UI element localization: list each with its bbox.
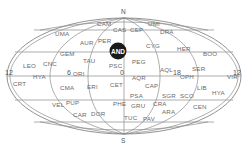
- constellation-label-lib[interactable]: LIB: [197, 84, 207, 91]
- constellation-label-phe[interactable]: PHE: [113, 100, 126, 107]
- constellation-label-ori[interactable]: ORI: [73, 70, 85, 77]
- sky-map: N S 12 6 0 18 12 AND CAMCASCEPUMIDRAUMAA…: [0, 0, 248, 149]
- constellation-label-psc[interactable]: PSC: [109, 62, 123, 69]
- constellation-label-per[interactable]: PER: [98, 37, 112, 44]
- constellation-label-hya2[interactable]: HYA: [212, 89, 226, 96]
- constellation-label-gru[interactable]: GRU: [131, 102, 145, 109]
- constellation-label-psa[interactable]: PSA: [130, 92, 144, 99]
- constellation-label-ara[interactable]: ARA: [162, 108, 176, 115]
- constellation-label-dor[interactable]: DOR: [91, 110, 106, 117]
- constellation-label-vel[interactable]: VEL: [52, 101, 65, 108]
- constellation-label-sgr[interactable]: SGR: [162, 92, 176, 99]
- constellation-label-cnc[interactable]: CNC: [43, 60, 57, 67]
- constellation-label-car[interactable]: CAR: [73, 111, 87, 118]
- constellation-label-tuc[interactable]: TUC: [124, 114, 138, 121]
- constellation-label-cap[interactable]: CAP: [145, 82, 158, 89]
- constellation-label-dra[interactable]: DRA: [160, 28, 174, 35]
- constellation-label-ser[interactable]: SER: [192, 65, 206, 72]
- south-pole-label: S: [121, 137, 126, 144]
- constellation-label-vir[interactable]: VIR: [227, 73, 238, 80]
- constellation-label-cen[interactable]: CEN: [193, 103, 207, 110]
- constellation-label-crt[interactable]: CRT: [13, 80, 26, 87]
- constellation-label-cep[interactable]: CEP: [130, 26, 143, 33]
- north-pole-label: N: [121, 8, 126, 15]
- constellation-label-umi[interactable]: UMI: [148, 20, 160, 27]
- constellation-label-cma[interactable]: CMA: [60, 84, 75, 91]
- constellation-label-cet[interactable]: CET: [110, 81, 123, 88]
- constellation-label-cyg[interactable]: CYG: [146, 42, 160, 49]
- constellation-label-tau[interactable]: TAU: [83, 57, 96, 64]
- constellation-label-uma[interactable]: UMA: [55, 30, 70, 37]
- constellation-label-eri[interactable]: ERI: [87, 83, 98, 90]
- constellation-label-aqr[interactable]: AQR: [132, 74, 146, 81]
- constellation-label-boo[interactable]: BOO: [203, 50, 217, 57]
- constellation-labels: CAMCASCEPUMIDRAUMAAURPERCYGHERBOOGEMLEOC…: [13, 20, 238, 122]
- constellation-label-gem[interactable]: GEM: [60, 50, 75, 57]
- hour-label-left: 12: [5, 69, 13, 76]
- constellation-label-sco[interactable]: SCO: [180, 92, 194, 99]
- constellation-label-her[interactable]: HER: [177, 45, 191, 52]
- constellation-label-cas[interactable]: CAS: [113, 26, 126, 33]
- constellation-label-peg[interactable]: PEG: [132, 58, 146, 65]
- constellation-label-cam[interactable]: CAM: [97, 20, 111, 27]
- constellation-label-hya1[interactable]: HYA: [33, 73, 47, 80]
- constellation-label-cra[interactable]: CRA: [153, 100, 167, 107]
- constellation-label-pav[interactable]: PAV: [143, 115, 156, 122]
- highlighted-constellation-and[interactable]: AND: [110, 43, 127, 60]
- constellation-label-aur[interactable]: AUR: [80, 39, 94, 46]
- constellation-label-leo[interactable]: LEO: [23, 62, 36, 69]
- hour-label-0: 0: [120, 69, 124, 76]
- constellation-label-aql[interactable]: AQL: [160, 66, 173, 73]
- constellation-label-oph[interactable]: OPH: [180, 73, 194, 80]
- constellation-label-pup[interactable]: PUP: [66, 99, 79, 106]
- hour-label-6: 6: [67, 69, 71, 76]
- svg-text:AND: AND: [111, 48, 125, 55]
